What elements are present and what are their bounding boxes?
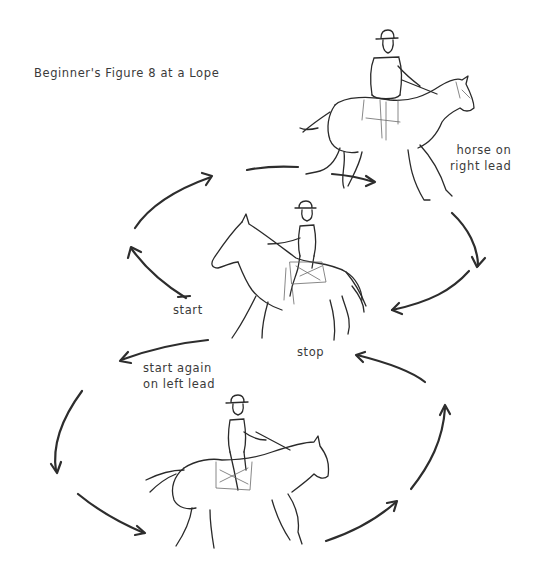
horse-rider-right-lead-icon xyxy=(300,30,474,200)
figure-eight-diagram xyxy=(0,0,539,584)
arrow-left-down-icon xyxy=(51,391,82,473)
arrow-to-center-icon xyxy=(392,271,469,314)
arrow-bottom-left-icon xyxy=(78,494,145,535)
horse-rider-left-lead-icon xyxy=(146,395,329,548)
arrow-start-again-icon xyxy=(120,340,208,363)
arrow-top-left-arc-icon xyxy=(135,173,212,228)
horse-rider-center-icon xyxy=(212,201,366,340)
arrow-start-up-left-icon xyxy=(128,247,190,298)
arrows xyxy=(51,167,485,541)
arrow-right-down-icon xyxy=(452,213,485,267)
arrow-right-up-icon xyxy=(411,405,450,489)
arrow-bottom-right-icon xyxy=(326,501,397,541)
arrow-to-stop-icon xyxy=(356,352,425,382)
